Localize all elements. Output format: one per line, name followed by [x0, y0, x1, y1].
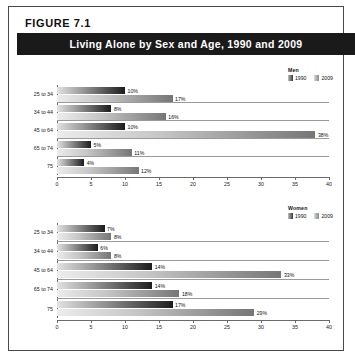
bar-value-label: 17% [175, 302, 185, 308]
bar-group: 25 to 347%8% [57, 223, 329, 242]
bar-track: 18% [57, 290, 329, 297]
figure-title-bar: Living Alone by Sex and Age, 1990 and 20… [17, 33, 355, 55]
legend-item-1990: 1990 [288, 75, 307, 81]
bar-value-label: 8% [114, 106, 122, 112]
chart-women: Women 1990 2009 25 to 347%8%34 to 446%8%… [9, 197, 345, 349]
bar-track: 10% [57, 123, 329, 130]
legend-swatch-1990-icon [288, 213, 293, 219]
x-axis-tick-label: 40 [326, 181, 332, 187]
legend-women: Women 1990 2009 [288, 205, 333, 219]
chart-men: Men 1990 2009 25 to 3410%17%34 to 448%16… [9, 59, 345, 204]
x-axis-tick-label: 10 [122, 181, 128, 187]
legend-label-1990: 1990 [295, 75, 307, 81]
x-axis-tick-label: 5 [90, 324, 93, 330]
x-axis-tick-label: 30 [258, 324, 264, 330]
bar-track: 5% [57, 141, 329, 148]
category-label: 34 to 44 [34, 248, 53, 254]
x-axis-tick [227, 177, 228, 180]
bar-1990 [57, 105, 111, 112]
bar-1990 [57, 301, 173, 308]
x-axis-tick [159, 177, 160, 180]
bar-value-label: 14% [155, 283, 165, 289]
figure-frame: FIGURE 7.1 Living Alone by Sex and Age, … [8, 6, 344, 351]
bar-group: 754%12% [57, 157, 329, 175]
legend-men: Men 1990 2009 [288, 67, 333, 81]
bar-1990 [57, 159, 84, 166]
bar-value-label: 7% [107, 226, 115, 232]
bar-track: 4% [57, 159, 329, 166]
x-axis-tick-label: 25 [224, 181, 230, 187]
bar-value-label: 8% [114, 253, 122, 259]
bar-2009 [57, 149, 132, 156]
legend-item-2009: 2009 [314, 75, 333, 81]
bar-track: 33% [57, 271, 329, 278]
x-axis-tick-label: 10 [122, 324, 128, 330]
x-axis-tick-label: 15 [156, 324, 162, 330]
bar-value-label: 38% [318, 132, 328, 138]
bar-group: 65 to 7414%18% [57, 280, 329, 299]
bar-value-label: 12% [141, 168, 151, 174]
x-axis-tick [91, 177, 92, 180]
x-axis-tick-label: 40 [326, 324, 332, 330]
bar-value-label: 8% [114, 234, 122, 240]
legend-label-1990: 1990 [295, 213, 307, 219]
x-axis-tick-label: 0 [56, 324, 59, 330]
legend-swatch-1990-icon [288, 75, 293, 81]
x-axis-tick-label: 5 [90, 181, 93, 187]
category-label: 25 to 34 [34, 229, 53, 235]
bar-value-label: 10% [128, 124, 138, 130]
bar-value-label: 4% [87, 160, 95, 166]
legend-swatch-2009-icon [314, 213, 319, 219]
x-axis-tick [57, 320, 58, 323]
bar-2009 [57, 309, 254, 316]
bar-track: 38% [57, 131, 329, 138]
bar-2009 [57, 233, 111, 240]
bar-2009 [57, 95, 173, 102]
legend-label-2009: 2009 [321, 213, 333, 219]
bar-2009 [57, 271, 281, 278]
bar-value-label: 33% [284, 272, 294, 278]
legend-title-women: Women [288, 205, 333, 211]
bar-group: 7517%29% [57, 299, 329, 318]
legend-item-2009: 2009 [314, 213, 333, 219]
x-axis-tick [193, 177, 194, 180]
bar-track: 17% [57, 301, 329, 308]
x-axis-tick [295, 320, 296, 323]
bar-1990 [57, 282, 152, 289]
bar-track: 17% [57, 95, 329, 102]
x-axis-tick [57, 177, 58, 180]
bar-1990 [57, 244, 98, 251]
bar-group: 34 to 446%8% [57, 242, 329, 261]
x-axis-tick-label: 20 [190, 324, 196, 330]
category-label: 65 to 74 [34, 286, 53, 292]
legend-label-2009: 2009 [321, 75, 333, 81]
bar-group: 34 to 448%16% [57, 103, 329, 121]
bar-track: 10% [57, 87, 329, 94]
x-axis-tick-label: 30 [258, 181, 264, 187]
category-label: 25 to 34 [34, 91, 53, 97]
bar-value-label: 5% [94, 142, 102, 148]
figure-title: Living Alone by Sex and Age, 1990 and 20… [70, 38, 303, 50]
x-axis-tick-label: 0 [56, 181, 59, 187]
x-axis-tick [227, 320, 228, 323]
bar-2009 [57, 113, 166, 120]
bar-track: 8% [57, 105, 329, 112]
bar-track: 16% [57, 113, 329, 120]
bar-group: 45 to 6414%33% [57, 261, 329, 280]
bar-group: 65 to 745%11% [57, 139, 329, 157]
x-axis-tick [329, 320, 330, 323]
x-axis-tick-label: 25 [224, 324, 230, 330]
bar-value-label: 11% [134, 150, 144, 156]
category-label: 65 to 74 [34, 145, 53, 151]
bar-1990 [57, 123, 125, 130]
category-label: 45 to 64 [34, 267, 53, 273]
bar-2009 [57, 167, 139, 174]
x-axis-tick-label: 15 [156, 181, 162, 187]
bar-2009 [57, 290, 179, 297]
bar-value-label: 17% [175, 96, 185, 102]
bar-track: 29% [57, 309, 329, 316]
bar-track: 8% [57, 233, 329, 240]
x-axis-tick [125, 320, 126, 323]
figure-number-label: FIGURE 7.1 [25, 17, 91, 29]
bar-value-label: 18% [182, 291, 192, 297]
